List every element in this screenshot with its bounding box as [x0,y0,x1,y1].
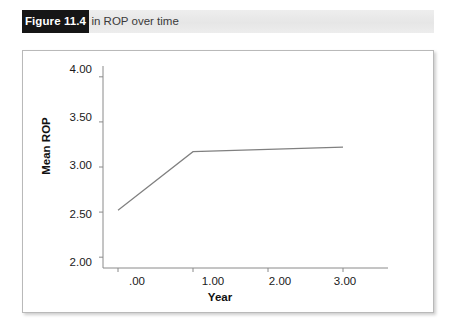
figure-panel [22,50,434,313]
figure-header: Figure 11.4 Change in ROP over time [22,10,434,33]
figure-number-badge: Figure 11.4 [22,10,89,33]
